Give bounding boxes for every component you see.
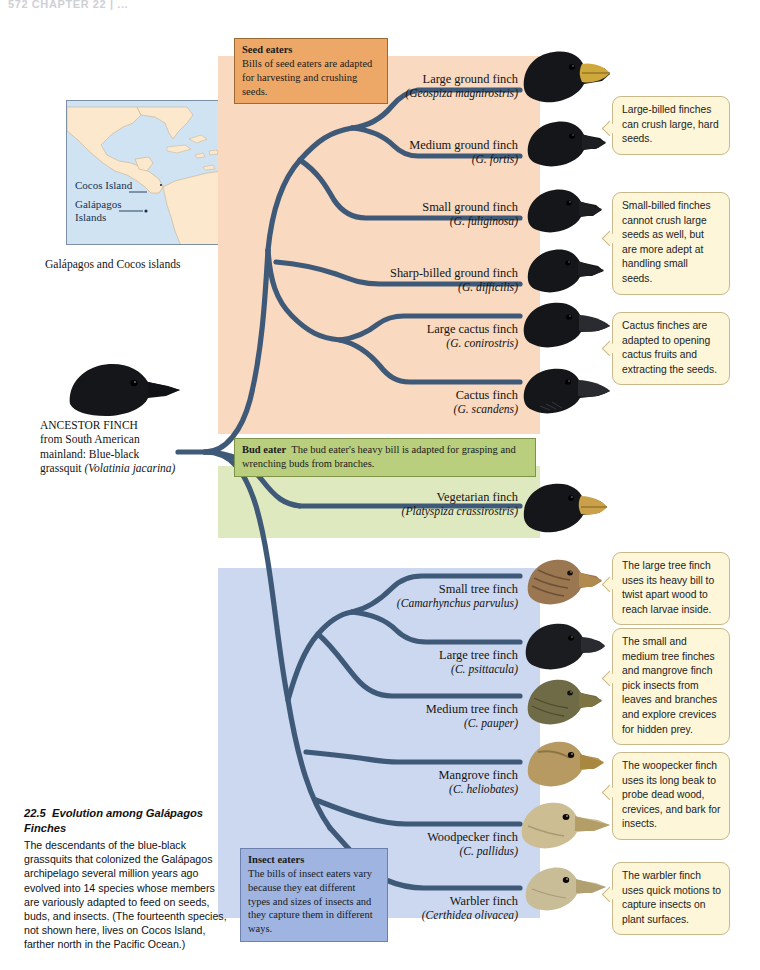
bird-head-warbler-finch — [522, 864, 608, 914]
bird-head-medium-tree-finch — [524, 676, 604, 728]
species-latin-name: (C. pauper) — [328, 717, 518, 731]
callout-large-tree: The large tree finch uses its heavy bill… — [612, 552, 730, 625]
diet-heading-bud: Bud eater — [242, 444, 286, 455]
species-common-name: Warbler finch — [328, 894, 518, 909]
ancestor-line2: from South American — [40, 433, 140, 445]
bird-head-large-ground-finch — [520, 48, 612, 106]
figure-number: 22.5 — [24, 807, 46, 819]
figure-caption-body: The descendants of the blue-black grassq… — [24, 839, 227, 950]
species-common-name: Medium ground finch — [328, 138, 518, 153]
species-common-name: Large cactus finch — [328, 322, 518, 337]
species-latin-name: (G. fortis) — [328, 153, 518, 167]
bird-head-sharp-billed-ground-finch — [524, 246, 606, 296]
figure-title: Evolution among Galápagos Finches — [24, 807, 203, 834]
species-latin-name: (Platyspiza crassirostris) — [328, 505, 518, 519]
species-latin-name: (Geospiza magnirostris) — [328, 87, 518, 101]
species-label-small-ground-finch: Small ground finch (G. fuliginosa) — [328, 200, 518, 228]
species-label-woodpecker-finch: Woodpecker finch (C. pallidus) — [328, 830, 518, 858]
species-latin-name: (C. heliobates) — [328, 783, 518, 797]
bird-head-mangrove-finch — [524, 738, 606, 790]
diet-heading-insect: Insect eaters — [248, 854, 304, 865]
species-label-medium-ground-finch: Medium ground finch (G. fortis) — [328, 138, 518, 166]
bird-head-small-ground-finch — [524, 186, 604, 236]
species-latin-name: (Certhidea olivacea) — [328, 909, 518, 923]
species-common-name: Cactus finch — [328, 388, 518, 403]
species-label-medium-tree-finch: Medium tree finch (C. pauper) — [328, 702, 518, 730]
species-label-large-ground-finch: Large ground finch (Geospiza magnirostri… — [328, 72, 518, 100]
ancestor-finch-caption: ANCESTOR FINCH from South American mainl… — [40, 418, 210, 476]
ancestor-line4: grassquit — [40, 462, 84, 474]
ancestor-finch-illustration — [62, 358, 182, 420]
finch-evolution-figure: 572 CHAPTER 22 | ... Cocos Island — [0, 0, 760, 970]
species-label-small-tree-finch: Small tree finch (Camarhynchus parvulus) — [328, 582, 518, 610]
callout-small-medium: The small and medium tree finches and ma… — [612, 628, 730, 745]
species-common-name: Small tree finch — [328, 582, 518, 597]
species-label-cactus-finch: Cactus finch (G. scandens) — [328, 388, 518, 416]
ancestor-line3: mainland: Blue-black — [40, 448, 139, 460]
species-common-name: Mangrove finch — [328, 768, 518, 783]
bird-head-large-cactus-finch — [520, 300, 612, 352]
bird-head-large-tree-finch — [522, 620, 606, 672]
bird-head-small-tree-finch — [524, 556, 604, 608]
callout-small-billed: Small-billed finches cannot crush large … — [612, 192, 730, 295]
species-common-name: Vegetarian finch — [328, 490, 518, 505]
bird-head-vegetarian-finch — [520, 480, 610, 536]
bird-head-cactus-finch — [520, 366, 612, 418]
ancestor-latin: (Volatinia jacarina) — [84, 462, 175, 474]
diet-box-bud-eater: Bud eater The bud eater's heavy bill is … — [234, 438, 536, 477]
species-common-name: Small ground finch — [328, 200, 518, 215]
species-common-name: Medium tree finch — [328, 702, 518, 717]
species-common-name: Sharp-billed ground finch — [328, 266, 518, 281]
species-label-sharp-billed-ground-finch: Sharp-billed ground finch (G. difficilis… — [328, 266, 518, 294]
species-label-vegetarian-finch: Vegetarian finch (Platyspiza crassirostr… — [328, 490, 518, 518]
species-latin-name: (C. pallidus) — [328, 845, 518, 859]
species-label-large-tree-finch: Large tree finch (C. psittacula) — [328, 648, 518, 676]
species-common-name: Large ground finch — [328, 72, 518, 87]
species-latin-name: (G. conirostris) — [328, 337, 518, 351]
species-latin-name: (G. difficilis) — [328, 281, 518, 295]
figure-title-line: 22.5 Evolution among Galápagos Finches — [24, 806, 230, 836]
callout-woodpecker: The woopecker finch uses its long beak t… — [612, 752, 730, 840]
callout-large-billed: Large-billed finches can crush large, ha… — [612, 96, 730, 155]
bird-head-medium-ground-finch — [524, 118, 608, 170]
ancestor-title: ANCESTOR FINCH — [40, 419, 138, 431]
species-label-large-cactus-finch: Large cactus finch (G. conirostris) — [328, 322, 518, 350]
species-label-warbler-finch: Warbler finch (Certhidea olivacea) — [328, 894, 518, 922]
callout-cactus: Cactus finches are adapted to opening ca… — [612, 312, 730, 385]
species-latin-name: (Camarhynchus parvulus) — [328, 597, 518, 611]
species-latin-name: (C. psittacula) — [328, 663, 518, 677]
figure-caption: 22.5 Evolution among Galápagos Finches T… — [24, 806, 230, 952]
diet-heading-seed: Seed eaters — [242, 44, 292, 55]
species-common-name: Large tree finch — [328, 648, 518, 663]
bird-head-woodpecker-finch — [518, 800, 612, 852]
species-latin-name: (G. fuliginosa) — [328, 215, 518, 229]
species-label-mangrove-finch: Mangrove finch (C. heliobates) — [328, 768, 518, 796]
species-latin-name: (G. scandens) — [328, 403, 518, 417]
callout-warbler: The warbler finch uses quick motions to … — [612, 862, 730, 935]
species-common-name: Woodpecker finch — [328, 830, 518, 845]
